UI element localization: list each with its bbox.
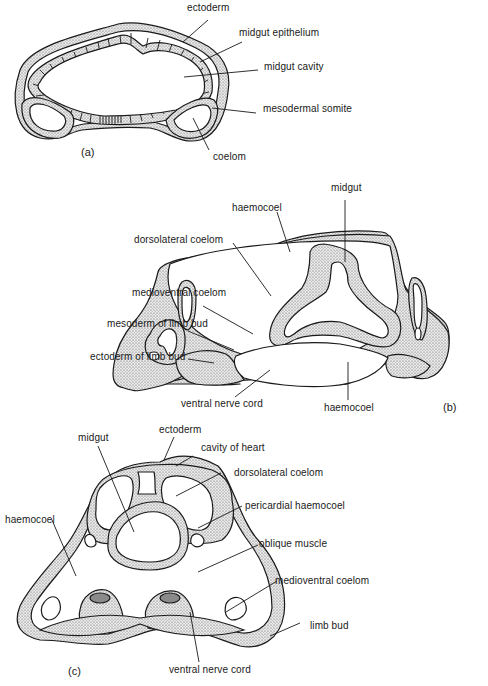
label-a-mesodermal-somite: mesodermal somite xyxy=(263,103,352,114)
label-a-midgut-epithelium: midgut epithelium xyxy=(239,27,319,38)
label-b-mesoderm-of-limb-bud: mesoderm of limb bud xyxy=(107,318,208,329)
label-c-midgut: midgut xyxy=(78,432,109,443)
label-a-coelom: coelom xyxy=(213,151,246,162)
panel-c-label: (c) xyxy=(68,665,81,677)
label-c-pericardial-haemocoel: pericardial haemocoel xyxy=(245,500,345,511)
label-b-ectoderm-of-limb-bud: ectoderm of limb bud xyxy=(90,351,185,362)
label-b-midgut: midgut xyxy=(331,182,362,193)
panel-a-drawing xyxy=(15,20,258,150)
label-c-oblique-muscle: oblique muscle xyxy=(259,538,327,549)
label-b-haemocoel-top: haemocoel xyxy=(232,202,282,213)
panel-b-drawing xyxy=(113,200,449,400)
label-a-midgut-cavity: midgut cavity xyxy=(264,61,324,72)
embryo-cross-section-diagram xyxy=(0,0,488,686)
label-c-haemocoel: haemocoel xyxy=(5,514,55,525)
label-a-ectoderm: ectoderm xyxy=(187,2,230,13)
label-c-ectoderm: ectoderm xyxy=(159,424,202,435)
label-b-medioventral-coelom: medioventral coelom xyxy=(132,287,226,298)
label-c-dorsolateral-coelom: dorsolateral coelom xyxy=(234,467,323,478)
label-b-haemocoel-bottom: haemocoel xyxy=(324,402,374,413)
label-c-ventral-nerve-cord: ventral nerve cord xyxy=(169,664,251,675)
label-c-medioventral-coelom: medioventral coelom xyxy=(275,575,369,586)
label-c-cavity-of-heart: cavity of heart xyxy=(201,442,265,453)
panel-a-label: (a) xyxy=(81,146,94,158)
panel-b-label: (b) xyxy=(443,401,456,413)
label-b-dorsolateral-coelom: dorsolateral coelom xyxy=(134,234,223,245)
label-b-ventral-nerve-cord: ventral nerve cord xyxy=(181,398,263,409)
label-c-limb-bud: limb bud xyxy=(310,620,349,631)
